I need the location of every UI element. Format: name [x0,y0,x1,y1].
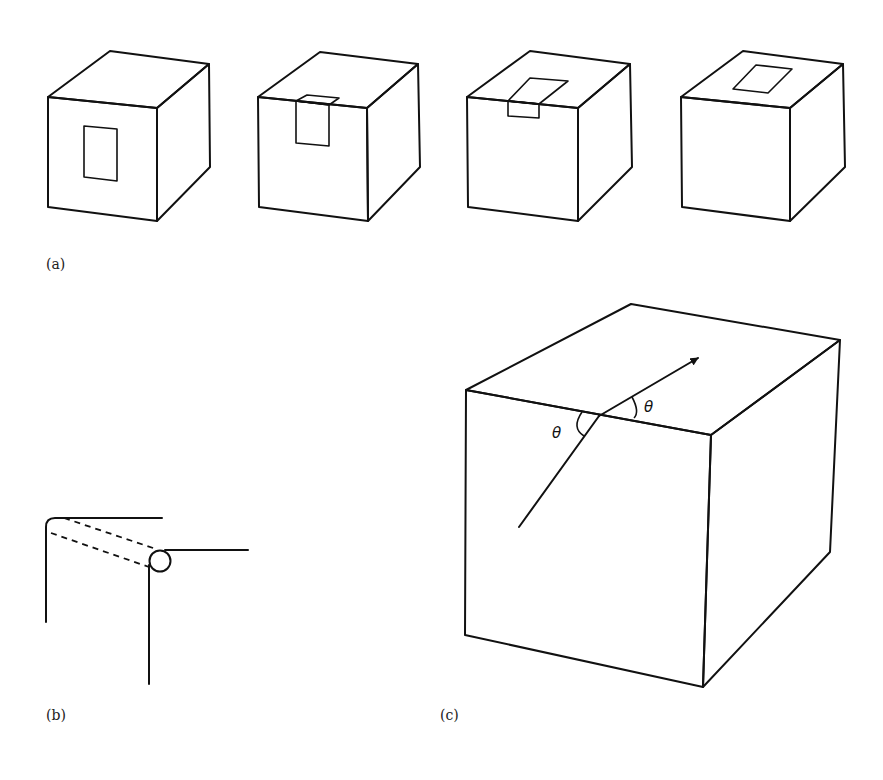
cube-a4-front-face [681,97,790,221]
theta-label-left: θ [552,424,561,442]
cube-a1-side-face [157,64,210,221]
cube-a4-window-top [733,65,792,93]
cube-a4 [681,51,845,221]
cube-a1-front-face [48,97,157,221]
panel-label-b: (b) [46,707,66,723]
cube-c-front-face [465,390,711,687]
dashed-connector-lower [51,533,149,567]
angle-arc-left [577,412,584,436]
rounded-corner-profile [46,518,162,622]
cube-a3 [467,51,632,221]
cube-a3-front-face [467,97,578,221]
cube-c-side-face [703,340,840,687]
panel-label-c: (c) [440,707,459,723]
angle-arc-right [632,397,637,418]
panel-label-a: (a) [46,256,65,272]
corner-profiles-b [46,518,248,684]
dashed-connector-upper [64,518,156,549]
cube-a3-side-face [578,64,632,221]
cube-a2-window-top [296,95,339,105]
cube-a4-side-face [790,64,845,221]
cube-a3-window-top [508,78,568,104]
cube-a1 [48,51,210,221]
cube-c: θ θ [465,304,840,687]
cube-a2-side-face [367,64,420,221]
cube-a2 [258,52,420,221]
cube-a2-front-face [258,97,368,221]
theta-label-right: θ [644,398,653,416]
edge-cylinder-circle [150,551,171,572]
cube-a2-window-front [296,101,329,146]
figure-canvas: θ θ [0,0,883,780]
cube-a1-window [84,126,117,181]
